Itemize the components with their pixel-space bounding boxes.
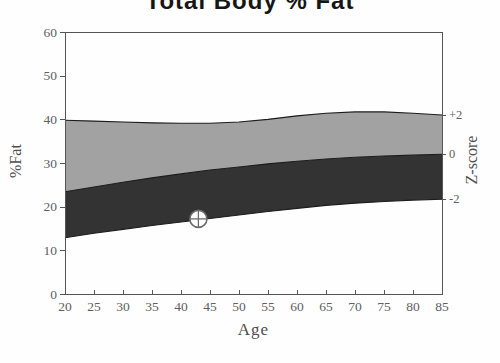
chart-plot-area: 2025303540455055606570758085010203040506… <box>0 0 500 363</box>
y-axis-title-right: Z-score <box>463 136 481 185</box>
y-tick-label: 40 <box>44 112 58 127</box>
x-tick-label: 50 <box>232 299 246 314</box>
x-tick-label: 40 <box>174 299 188 314</box>
x-tick-label: 45 <box>203 299 217 314</box>
x-tick-label: 25 <box>87 299 101 314</box>
x-tick-label: 65 <box>319 299 333 314</box>
x-tick-label: 55 <box>261 299 275 314</box>
x-axis-title: Age <box>65 320 442 340</box>
x-tick-label: 80 <box>406 299 420 314</box>
y-tick-label: 10 <box>44 243 58 258</box>
y-tick-label: 20 <box>44 199 58 214</box>
z-tick-label: -2 <box>449 192 459 206</box>
y-axis-title-left: %Fat <box>7 144 25 178</box>
x-tick-label: 60 <box>290 299 304 314</box>
x-tick-label: 30 <box>116 299 130 314</box>
y-tick-label: 30 <box>44 156 58 171</box>
y-tick-label: 0 <box>50 287 57 302</box>
y-tick-label: 50 <box>44 68 58 83</box>
x-tick-label: 85 <box>435 299 449 314</box>
y-tick-label: 60 <box>44 25 58 40</box>
z-tick-label: 0 <box>449 147 455 161</box>
total-body-fat-chart: Total Body % Fat 20253035404550556065707… <box>0 0 500 363</box>
x-tick-label: 70 <box>348 299 362 314</box>
x-tick-label: 35 <box>145 299 159 314</box>
z-tick-label: +2 <box>449 108 462 122</box>
x-tick-label: 75 <box>377 299 391 314</box>
x-tick-label: 20 <box>58 299 72 314</box>
